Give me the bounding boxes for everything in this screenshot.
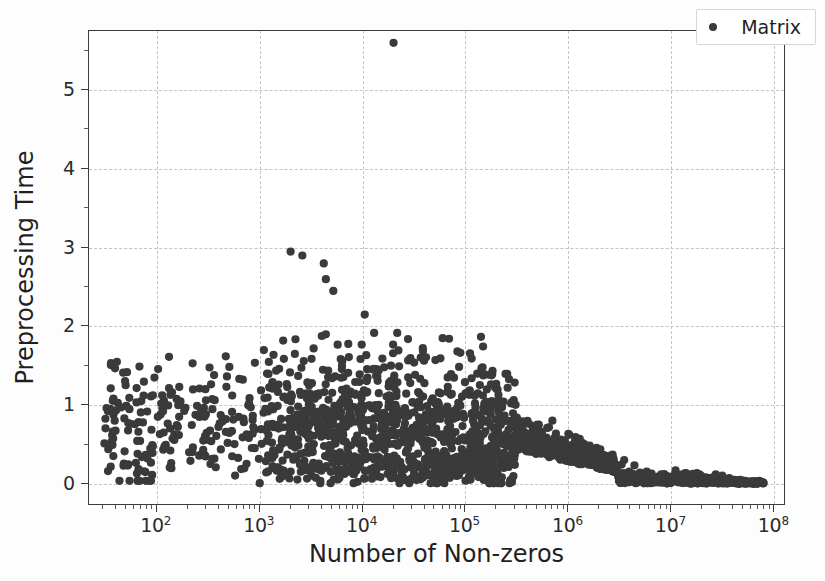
legend[interactable]: Matrix bbox=[696, 9, 816, 45]
data-point bbox=[228, 408, 236, 416]
data-point bbox=[535, 449, 543, 457]
data-point bbox=[622, 469, 630, 477]
data-point bbox=[189, 443, 197, 451]
data-point bbox=[759, 479, 767, 487]
data-point bbox=[291, 335, 299, 343]
data-point bbox=[385, 379, 393, 387]
data-point bbox=[275, 444, 283, 452]
data-point bbox=[473, 370, 481, 378]
x-axis-title: Number of Non-zeros bbox=[88, 540, 785, 568]
data-point bbox=[210, 371, 218, 379]
data-point bbox=[481, 418, 489, 426]
data-point bbox=[328, 421, 336, 429]
data-point bbox=[189, 359, 197, 367]
data-point bbox=[511, 461, 519, 469]
data-point bbox=[125, 477, 133, 485]
data-point bbox=[101, 415, 109, 423]
data-point bbox=[445, 427, 453, 435]
data-point bbox=[499, 451, 507, 459]
y-tick-label: 5 bbox=[50, 78, 75, 100]
data-point bbox=[341, 389, 349, 397]
x-tick-minor bbox=[719, 505, 720, 509]
data-point bbox=[693, 469, 701, 477]
data-point bbox=[124, 460, 132, 468]
data-point bbox=[328, 389, 336, 397]
data-point bbox=[293, 476, 301, 484]
y-tick-major bbox=[81, 483, 88, 484]
x-tick-minor bbox=[654, 505, 655, 509]
data-point bbox=[175, 431, 183, 439]
data-point bbox=[365, 416, 373, 424]
data-point bbox=[107, 384, 115, 392]
data-point bbox=[274, 464, 282, 472]
data-point bbox=[239, 376, 247, 384]
x-tick-minor bbox=[526, 505, 527, 509]
x-tick-label: 104 bbox=[346, 514, 377, 536]
data-point bbox=[568, 446, 576, 454]
data-point bbox=[285, 415, 293, 423]
x-tick-minor bbox=[536, 505, 537, 509]
data-point bbox=[294, 402, 302, 410]
x-tick-minor bbox=[514, 505, 515, 509]
scatter-points-group bbox=[100, 39, 767, 488]
data-point bbox=[401, 413, 409, 421]
data-point bbox=[471, 446, 479, 454]
data-point bbox=[666, 479, 674, 487]
x-tick-minor bbox=[321, 505, 322, 509]
x-tick-minor bbox=[449, 505, 450, 509]
data-point bbox=[307, 404, 315, 412]
data-point bbox=[417, 436, 425, 444]
data-point bbox=[166, 446, 174, 454]
y-tick-major bbox=[81, 89, 88, 90]
data-point bbox=[324, 396, 332, 404]
data-point bbox=[149, 442, 157, 450]
data-point bbox=[108, 441, 116, 449]
data-point bbox=[223, 372, 231, 380]
x-tick-label: 107 bbox=[655, 514, 686, 536]
x-tick-major bbox=[567, 505, 568, 512]
data-point bbox=[334, 341, 342, 349]
x-tick-minor bbox=[648, 505, 649, 509]
x-tick-label: 108 bbox=[758, 514, 789, 536]
data-point bbox=[336, 399, 344, 407]
data-point bbox=[337, 374, 345, 382]
x-tick-minor bbox=[352, 505, 353, 509]
data-point bbox=[534, 436, 542, 444]
data-point bbox=[160, 428, 168, 436]
x-tick-minor bbox=[563, 505, 564, 509]
x-tick-minor bbox=[205, 505, 206, 509]
data-point bbox=[484, 461, 492, 469]
data-point bbox=[258, 440, 266, 448]
data-point bbox=[208, 405, 216, 413]
data-point bbox=[117, 403, 125, 411]
data-point bbox=[256, 479, 264, 487]
x-tick-minor bbox=[442, 505, 443, 509]
data-point bbox=[345, 353, 353, 361]
data-point bbox=[265, 358, 273, 366]
data-point bbox=[465, 461, 473, 469]
data-point bbox=[368, 432, 376, 440]
y-tick-minor bbox=[84, 50, 88, 51]
data-point bbox=[200, 404, 208, 412]
data-point bbox=[385, 391, 393, 399]
data-point bbox=[137, 397, 145, 405]
x-tick-minor bbox=[308, 505, 309, 509]
data-point bbox=[378, 421, 386, 429]
data-point bbox=[235, 413, 243, 421]
data-point bbox=[448, 390, 456, 398]
data-point bbox=[432, 475, 440, 483]
data-point bbox=[498, 473, 506, 481]
data-point bbox=[470, 408, 478, 416]
data-point bbox=[487, 380, 495, 388]
data-point bbox=[363, 365, 371, 373]
data-point bbox=[175, 383, 183, 391]
x-tick-minor bbox=[393, 505, 394, 509]
x-tick-minor bbox=[598, 505, 599, 509]
x-tick-label: 105 bbox=[449, 514, 480, 536]
data-point bbox=[452, 462, 460, 470]
data-point bbox=[268, 379, 276, 387]
data-point bbox=[400, 428, 408, 436]
x-tick-minor bbox=[346, 505, 347, 509]
x-tick-minor bbox=[151, 505, 152, 509]
y-tick-major bbox=[81, 404, 88, 405]
